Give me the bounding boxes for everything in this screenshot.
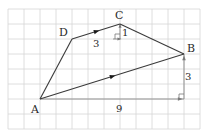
direction-arrow-dc-icon xyxy=(93,30,99,34)
point-label-c: C xyxy=(115,9,123,22)
measure-label-rise-dc: 1 xyxy=(122,27,128,38)
point-label-d: D xyxy=(59,26,68,39)
direction-arrow-ab-icon xyxy=(109,75,115,79)
vector-grid-diagram: A B C D 9 3 3 1 xyxy=(0,0,209,138)
point-label-b: B xyxy=(187,42,195,55)
rise-arrow-ab-icon xyxy=(182,56,186,61)
run-arrow-dc-icon xyxy=(117,38,121,41)
measure-label-rise-ab: 3 xyxy=(185,71,191,82)
point-label-a: A xyxy=(30,103,40,116)
measure-label-run-dc: 3 xyxy=(93,38,99,49)
measure-label-run-ab: 9 xyxy=(116,103,122,114)
